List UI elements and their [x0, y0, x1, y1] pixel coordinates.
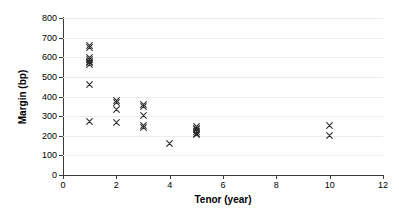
y-tick-label: 200 [42, 131, 57, 140]
data-point-marker [86, 81, 93, 88]
scatter-chart-figure: Margin (bp) 0100200300400500600700800 02… [0, 0, 399, 214]
data-point-marker [86, 61, 93, 68]
data-point-marker [86, 44, 93, 51]
x-tick-label: 10 [325, 181, 335, 190]
data-point-marker [86, 118, 93, 125]
y-tick-mark [59, 136, 63, 137]
data-point-marker [113, 119, 120, 126]
gridline [63, 57, 383, 58]
y-tick-mark [59, 57, 63, 58]
x-tick-label: 2 [114, 181, 119, 190]
y-tick-mark [59, 18, 63, 19]
gridline [63, 136, 383, 137]
data-point-marker [113, 106, 120, 113]
x-tick-mark [116, 175, 117, 179]
plot-area: 0100200300400500600700800 024681012 [63, 18, 383, 175]
y-tick-label: 0 [52, 171, 57, 180]
x-tick-label: 8 [274, 181, 279, 190]
data-point-marker [326, 122, 333, 129]
gridlines [63, 18, 383, 175]
data-point-marker [326, 132, 333, 139]
x-tick-mark [330, 175, 331, 179]
y-tick-label: 800 [42, 14, 57, 23]
y-tick-label: 500 [42, 72, 57, 81]
x-tick-mark [170, 175, 171, 179]
y-axis-title-wrap: Margin (bp) [14, 18, 28, 175]
y-tick-mark [59, 116, 63, 117]
data-point-marker [166, 140, 173, 147]
data-point-marker [140, 103, 147, 110]
x-axis-title: Tenor (year) [63, 194, 383, 205]
x-tick-label: 0 [60, 181, 65, 190]
y-tick-label: 400 [42, 92, 57, 101]
y-tick-mark [59, 97, 63, 98]
x-tick-mark [383, 175, 384, 179]
y-tick-label: 300 [42, 112, 57, 121]
x-tick-mark [223, 175, 224, 179]
x-tick-mark [276, 175, 277, 179]
data-point-marker [140, 124, 147, 131]
data-point-marker [140, 112, 147, 119]
x-tick-label: 6 [220, 181, 225, 190]
gridline [63, 38, 383, 39]
y-axis-title: Margin (bp) [17, 69, 28, 123]
x-tick-mark [63, 175, 64, 179]
gridline [63, 116, 383, 117]
y-tick-label: 100 [42, 151, 57, 160]
y-tick-mark [59, 155, 63, 156]
gridline [63, 155, 383, 156]
data-point-marker [193, 131, 200, 138]
y-tick-mark [59, 38, 63, 39]
x-tick-label: 4 [167, 181, 172, 190]
y-tick-label: 600 [42, 53, 57, 62]
y-tick-label: 700 [42, 33, 57, 42]
y-tick-mark [59, 77, 63, 78]
x-tick-label: 12 [378, 181, 388, 190]
gridline [63, 18, 383, 19]
gridline [63, 77, 383, 78]
gridline [63, 97, 383, 98]
